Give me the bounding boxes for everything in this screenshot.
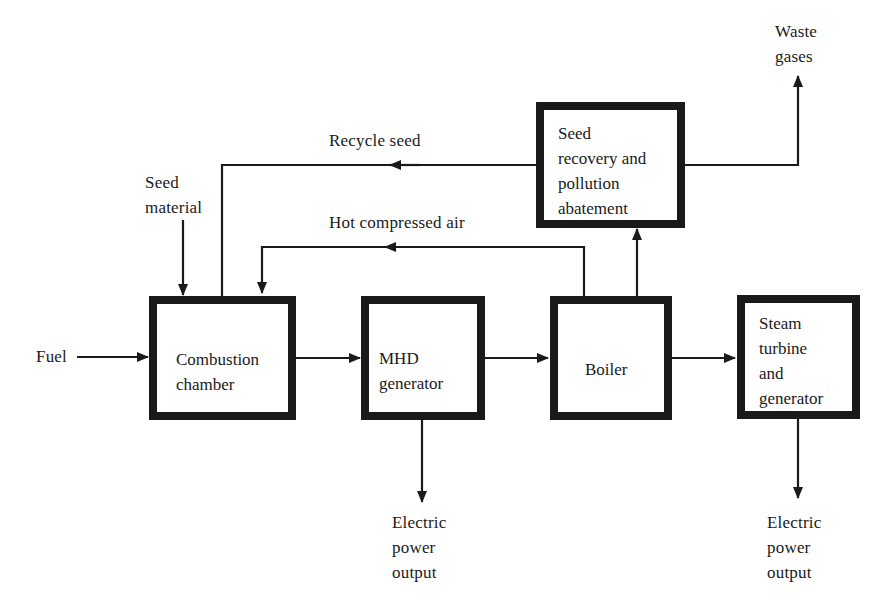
seed-recovery-line4: abatement [558, 196, 628, 221]
steam-line2: turbine [759, 336, 807, 361]
hot-compressed-air-label: Hot compressed air [329, 210, 465, 235]
mhd-output-label-line1: Electric [392, 510, 446, 535]
mhd-line2: generator [379, 371, 443, 396]
hot-air-line [262, 247, 584, 297]
fuel-label: Fuel [36, 344, 67, 369]
steam-line4: generator [759, 386, 823, 411]
steam-output-label-line2: power [767, 535, 810, 560]
steam-line1: Steam [759, 311, 802, 336]
recycle-seed-label: Recycle seed [329, 128, 421, 153]
seed-recovery-block: Seed recovery and pollution abatement [536, 102, 685, 228]
steam-output-label-line1: Electric [767, 510, 821, 535]
boiler-line1: Boiler [585, 357, 628, 382]
mhd-line1: MHD [379, 346, 419, 371]
steam-output-label-line3: output [767, 560, 812, 585]
waste-gases-line [684, 76, 798, 165]
boiler-block: Boiler [550, 296, 672, 420]
seed-material-label-line2: material [145, 195, 202, 220]
steam-turbine-block: Steam turbine and generator [737, 295, 860, 419]
mhd-generator-block: MHD generator [361, 296, 485, 420]
seed-recovery-line1: Seed [558, 121, 591, 146]
waste-gases-label-line2: gases [775, 44, 813, 69]
combustion-chamber-block: Combustion chamber [149, 296, 296, 420]
mhd-output-label-line3: output [392, 560, 437, 585]
combustion-line1: Combustion [176, 347, 259, 372]
steam-line3: and [759, 361, 784, 386]
combustion-line2: chamber [176, 372, 235, 397]
seed-material-label-line1: Seed [145, 170, 179, 195]
mhd-output-label-line2: power [392, 535, 435, 560]
seed-recovery-line3: pollution [558, 171, 619, 196]
waste-gases-label-line1: Waste [775, 19, 817, 44]
seed-recovery-line2: recovery and [558, 146, 646, 171]
